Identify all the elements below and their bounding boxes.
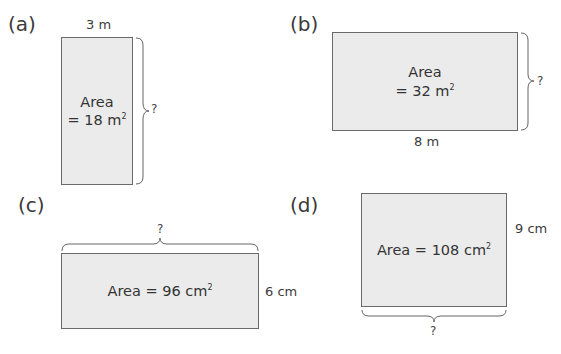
problem-d-rectangle: Area = 108 cm2 bbox=[361, 193, 507, 307]
problem-b-brace-icon bbox=[520, 32, 536, 131]
problem-b-rectangle: Area = 32 m2 bbox=[332, 32, 518, 131]
problem-b-unknown-height: ? bbox=[537, 74, 543, 88]
problem-b-area-value: = 32 m2 bbox=[395, 82, 454, 100]
problem-d-unknown-width: ? bbox=[430, 324, 436, 338]
problem-b-width-label: 8 m bbox=[414, 134, 439, 149]
problem-a-rectangle: Area = 18 m2 bbox=[61, 37, 133, 185]
problem-a-width-label: 3 m bbox=[86, 17, 111, 32]
problem-a-area-title: Area bbox=[67, 93, 126, 111]
problem-d-brace-icon bbox=[361, 309, 507, 325]
problem-d-area-value: Area = 108 cm2 bbox=[377, 241, 491, 259]
problem-c-height-label: 6 cm bbox=[265, 284, 297, 299]
problem-a-unknown-height: ? bbox=[151, 102, 157, 116]
problem-d-label: (d) bbox=[290, 193, 318, 217]
problem-c-unknown-width: ? bbox=[157, 222, 163, 236]
problem-d-height-label: 9 cm bbox=[515, 221, 547, 236]
problem-a-brace-icon bbox=[135, 37, 151, 185]
problem-a-area-value: = 18 m2 bbox=[67, 111, 126, 129]
problem-c-rectangle: Area = 96 cm2 bbox=[61, 253, 259, 329]
problem-b-area-title: Area bbox=[395, 63, 454, 81]
problem-b-label: (b) bbox=[290, 12, 318, 36]
problem-c-label: (c) bbox=[18, 193, 45, 217]
problem-a-label: (a) bbox=[8, 12, 36, 36]
problem-c-brace-icon bbox=[61, 236, 259, 252]
problem-c-area-value: Area = 96 cm2 bbox=[108, 282, 213, 300]
